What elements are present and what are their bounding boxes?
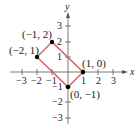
x-axis-arrow-icon (122, 70, 128, 74)
y-tick: 2 (57, 36, 62, 47)
y-axis-label: y (64, 1, 70, 12)
coordinate-plane: x y −3 −2 −1 1 2 3 3 2 1 −1 −2 −3 (−1, 2… (0, 0, 140, 126)
y-tick: 3 (57, 20, 62, 31)
point-label: (−1, 2) (22, 28, 52, 41)
point-label: (0, −1) (70, 88, 100, 101)
y-tick: −2 (52, 96, 63, 107)
x-tick: −3 (16, 75, 27, 86)
y-tick: −1 (52, 81, 63, 92)
x-axis-label: x (129, 66, 135, 77)
point-label: (−2, 1) (9, 44, 39, 57)
point-marker (81, 70, 85, 74)
x-tick: 1 (81, 75, 86, 86)
x-tick: 2 (96, 75, 101, 86)
y-tick: 1 (57, 51, 62, 62)
x-tick: 3 (111, 75, 116, 86)
y-axis-arrow-icon (66, 12, 70, 18)
x-tick: −2 (31, 75, 42, 86)
point-label: (1, 0) (82, 57, 106, 70)
point-marker (50, 40, 54, 44)
y-tick: −3 (52, 112, 63, 123)
